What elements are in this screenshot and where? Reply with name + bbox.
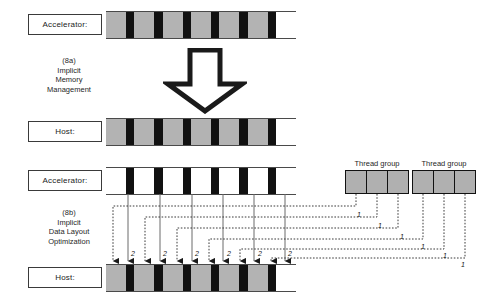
mapping-wires [0,0,485,301]
wire-marker-1: 1 [400,233,404,240]
wire-marker-2: 2 [163,250,167,257]
wire-marker-1: 1 [378,222,382,229]
wire-marker-2: 2 [288,250,292,257]
wire-marker-1: 1 [443,252,447,259]
wire-marker-2: 2 [227,250,231,257]
wire-marker-2: 2 [131,250,135,257]
figure-canvas: Accelerator: Host: Accelerator: Host: (8… [0,0,485,301]
wire-marker-2: 2 [258,250,262,257]
wire-marker-1: 1 [421,243,425,250]
wire-marker-2: 2 [195,250,199,257]
wire-marker-1: 1 [461,261,465,268]
wire-marker-1: 1 [357,211,361,218]
